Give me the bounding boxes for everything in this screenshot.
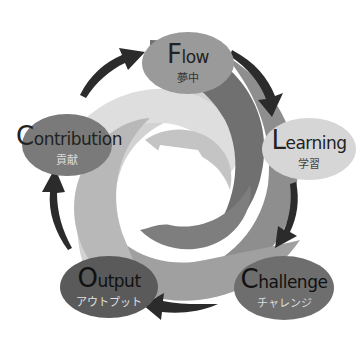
- node-flow-label: Flow: [167, 41, 209, 67]
- node-output: Output アウトプット: [60, 256, 158, 318]
- arrow-output-to-contribution: [42, 168, 72, 250]
- node-output-jp: アウトプット: [76, 293, 142, 309]
- node-flow: Flow 夢中: [142, 32, 234, 94]
- node-contribution: Contribution 貢献: [22, 114, 112, 176]
- node-learning-label: Learning: [271, 127, 346, 153]
- node-learning-jp: 学習: [298, 155, 320, 171]
- node-learning: Learning 学習: [262, 118, 356, 180]
- node-contribution-label: Contribution: [16, 123, 122, 149]
- node-challenge-label: Challenge: [241, 266, 328, 292]
- arrow-contribution-to-flow: [80, 48, 145, 98]
- node-contribution-jp: 貢献: [56, 151, 78, 167]
- cycle-diagram: Flow 夢中 Learning 学習 Challenge チャレンジ Outp…: [0, 0, 356, 340]
- node-challenge: Challenge チャレンジ: [234, 256, 334, 320]
- node-challenge-jp: チャレンジ: [257, 294, 312, 310]
- node-flow-jp: 夢中: [177, 69, 199, 85]
- node-output-label: Output: [77, 265, 140, 291]
